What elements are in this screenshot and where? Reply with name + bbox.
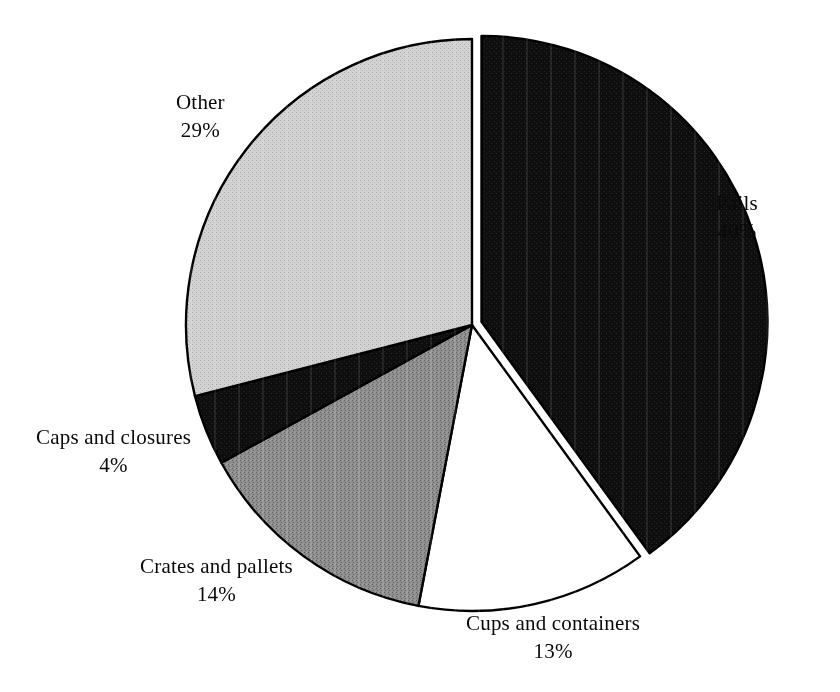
pie-label-pails-value: 40% [716, 218, 758, 246]
pie-label-other-value: 29% [176, 117, 225, 145]
pie-label-pails: Pails 40% [716, 190, 758, 245]
pie-label-crates-and-pallets: Crates and pallets 14% [140, 553, 293, 608]
pie-label-other: Other 29% [176, 89, 225, 144]
pie-label-crates-and-pallets-value: 14% [140, 581, 293, 609]
pie-label-crates-and-pallets-name: Crates and pallets [140, 553, 293, 581]
pie-label-other-name: Other [176, 89, 225, 117]
pie-label-caps-and-closures-value: 4% [36, 452, 191, 480]
pie-label-cups-and-containers-name: Cups and containers [466, 610, 640, 638]
pie-label-cups-and-containers-value: 13% [466, 638, 640, 666]
pie-chart-figure: Other 29% Pails 40% Caps and closures 4%… [0, 0, 840, 692]
pie-chart-graphic [0, 0, 840, 692]
pie-label-caps-and-closures: Caps and closures 4% [36, 424, 191, 479]
pie-label-cups-and-containers: Cups and containers 13% [466, 610, 640, 665]
pie-label-caps-and-closures-name: Caps and closures [36, 424, 191, 452]
pie-label-pails-name: Pails [716, 190, 758, 218]
